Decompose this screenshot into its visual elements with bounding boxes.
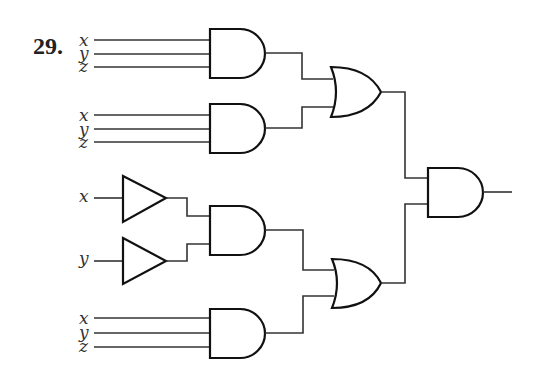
- input-label-z: z: [78, 56, 89, 76]
- and-gate-2: [210, 104, 265, 153]
- wire-and1-or1: [265, 53, 333, 79]
- and-gate-4: [210, 309, 265, 358]
- wire-buffer-x-and3: [166, 198, 210, 216]
- wire-and2-or1: [265, 107, 333, 128]
- input-label-z: z: [78, 336, 89, 356]
- input-label-y: y: [78, 248, 89, 268]
- wire-and3-or2: [265, 230, 334, 270]
- and-gate-1: [210, 29, 265, 78]
- and-gate-3: [210, 206, 265, 255]
- buffer-gate-x: [123, 176, 166, 222]
- input-label-z: z: [78, 132, 89, 152]
- input-wires-group-1: [94, 40, 210, 67]
- or-gate-1: [331, 67, 381, 117]
- and-gate-final: [428, 168, 483, 217]
- input-wires-group-4: [94, 318, 210, 347]
- wire-or2-final: [381, 204, 428, 283]
- problem-number: 29.: [33, 33, 63, 59]
- input-wires-group-2: [94, 115, 210, 142]
- wire-buffer-y-and3: [166, 244, 210, 261]
- wire-or1-final: [381, 92, 428, 178]
- buffer-gate-y: [123, 238, 166, 284]
- input-label-x: x: [79, 186, 89, 206]
- or-gate-2: [332, 259, 381, 308]
- wire-and4-or2: [265, 296, 334, 333]
- logic-circuit-diagram: 29. x y z x y z x y x y z: [0, 0, 548, 376]
